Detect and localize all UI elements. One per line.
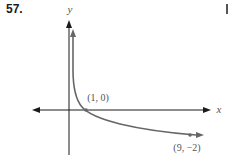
point-1-0 <box>84 108 88 112</box>
curve-right-arrow-icon <box>196 132 204 138</box>
log-curve <box>70 29 204 138</box>
x-axis-left-arrow-icon <box>32 107 40 113</box>
point-label-9-neg2: (9, −2) <box>173 142 200 154</box>
point-label-1-0: (1, 0) <box>87 92 109 104</box>
point-9-neg2 <box>188 133 192 137</box>
y-axis: y <box>66 3 73 155</box>
y-axis-arrow-icon <box>66 20 72 28</box>
x-axis-right-arrow-icon <box>203 107 211 113</box>
y-axis-label: y <box>67 3 73 15</box>
log-graph: y x (1, 0) (9, −2) <box>0 0 228 155</box>
curve-top-arrow-icon <box>70 29 76 37</box>
x-axis: x <box>32 103 222 115</box>
x-axis-label: x <box>216 103 222 115</box>
